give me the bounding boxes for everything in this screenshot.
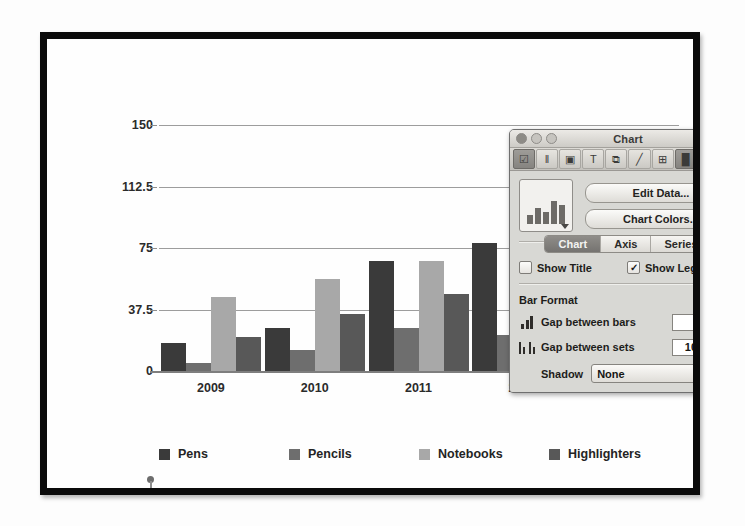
show-legend-checkbox[interactable]: ✓ Show Legend	[627, 261, 693, 274]
bar-group-2011[interactable]	[369, 39, 469, 371]
legend-swatch-icon	[419, 449, 430, 460]
bar-pencils-2009[interactable]	[186, 363, 211, 371]
shadow-value: None	[597, 368, 625, 380]
divider-2	[519, 283, 693, 285]
shapes-icon[interactable]: ⧉	[605, 149, 627, 169]
legend-label: Notebooks	[438, 447, 503, 461]
window-title: Chart	[510, 133, 693, 145]
y-axis: 037.575112.5150	[65, 39, 153, 488]
bar-pens-2010[interactable]	[265, 328, 290, 371]
chart-legend: PensPencilsNotebooksHighlighters	[159, 447, 683, 461]
edit-data-button[interactable]: Edit Data...	[585, 183, 693, 203]
legend-item-highlighters: Highlighters	[549, 447, 679, 461]
window-titlebar[interactable]: Chart	[510, 130, 693, 148]
chevron-down-icon[interactable]	[561, 224, 569, 229]
x-axis-label-2011: 2011	[405, 381, 432, 395]
bar-pencils-2010[interactable]	[290, 350, 315, 371]
y-tick	[150, 310, 157, 311]
legend-swatch-icon	[549, 449, 560, 460]
show-legend-label: Show Legend	[645, 262, 693, 274]
bar-thumb-5	[559, 205, 565, 224]
text-icon[interactable]: T	[582, 149, 604, 169]
gap-between-bars-row: Gap between bars 0% ▴▾	[519, 313, 693, 331]
legend-swatch-icon	[159, 449, 170, 460]
bar-highlighters-2009[interactable]	[236, 337, 261, 371]
document-icon[interactable]: ☑	[513, 149, 535, 169]
shadow-dropdown[interactable]: None ▴▾	[591, 364, 693, 383]
bar-highlighters-2011[interactable]	[444, 294, 469, 371]
bar-pens-2009[interactable]	[161, 343, 186, 371]
legend-label: Pens	[178, 447, 208, 461]
pencil-icon[interactable]: ╱	[628, 149, 650, 169]
pin-stem	[150, 481, 152, 488]
shadow-row: Shadow None ▴▾	[519, 364, 693, 383]
image-icon[interactable]: ▣	[559, 149, 581, 169]
bar-group-2010[interactable]	[265, 39, 365, 371]
bar-pens-2012[interactable]	[472, 243, 497, 371]
checkbox-icon-legend[interactable]: ✓	[627, 261, 640, 274]
inspector-tabs[interactable]: ChartAxisSeries	[544, 235, 693, 253]
legend-swatch-icon	[289, 449, 300, 460]
inspector-body: Edit Data... Chart Colors... ChartAxisSe…	[510, 171, 693, 392]
bar-thumb-1	[527, 215, 533, 224]
bar-pencils-2011[interactable]	[394, 328, 419, 371]
tabs-container: ChartAxisSeries	[519, 235, 693, 253]
legend-item-pencils: Pencils	[289, 447, 419, 461]
chart-type-row: Edit Data... Chart Colors...	[519, 179, 693, 232]
inspector-buttons: Edit Data... Chart Colors...	[585, 183, 693, 229]
bar-format-heading: Bar Format	[519, 294, 693, 306]
table-icon[interactable]: ⊞	[652, 149, 674, 169]
pin-marker	[146, 476, 155, 488]
bar-highlighters-2010[interactable]	[340, 314, 365, 371]
legend-label: Highlighters	[568, 447, 641, 461]
tab-series[interactable]: Series	[651, 236, 693, 252]
y-axis-label: 112.5	[122, 180, 153, 194]
legend-label: Pencils	[308, 447, 352, 461]
show-title-label: Show Title	[537, 262, 592, 274]
tab-axis[interactable]: Axis	[601, 236, 651, 252]
bar-notebooks-2010[interactable]	[315, 279, 340, 371]
frame-inner: 037.575112.5150 20092010201120122013 Pen…	[47, 39, 693, 488]
checkbox-icon-title[interactable]	[519, 261, 532, 274]
legend-item-pens: Pens	[159, 447, 289, 461]
bar-thumb-4	[551, 201, 557, 224]
checkbox-row: Show Title ✓ Show Legend	[519, 261, 693, 274]
y-tick	[150, 187, 157, 188]
chart-colors-button[interactable]: Chart Colors...	[585, 209, 693, 229]
bar-gap-icon	[519, 315, 535, 329]
gap-between-sets-input[interactable]: 100%	[672, 339, 693, 356]
chart-type-picker[interactable]	[519, 179, 573, 232]
gap-between-bars-label: Gap between bars	[541, 316, 666, 328]
bar-pens-2011[interactable]	[369, 261, 394, 371]
inspector-toolbar[interactable]: ☑‖▣T⧉╱⊞█◔◕	[510, 148, 693, 171]
y-tick	[150, 248, 157, 249]
x-axis-label-2009: 2009	[197, 381, 225, 395]
y-tick	[150, 125, 157, 126]
bar-group-2009[interactable]	[161, 39, 261, 371]
bar-thumb-2	[535, 208, 541, 224]
show-title-checkbox[interactable]: Show Title	[519, 261, 627, 274]
chart-icon[interactable]: █	[675, 149, 693, 169]
bar-notebooks-2011[interactable]	[419, 261, 444, 371]
gap-between-sets-row: Gap between sets 100% ▴▾	[519, 338, 693, 356]
screenshot-root: 037.575112.5150 20092010201120122013 Pen…	[0, 0, 745, 526]
gap-between-bars-input[interactable]: 0%	[672, 314, 693, 331]
legend-item-notebooks: Notebooks	[419, 447, 549, 461]
bar-thumb-3	[543, 212, 549, 224]
chart-inspector-window[interactable]: Chart ☑‖▣T⧉╱⊞█◔◕	[509, 129, 693, 393]
set-gap-icon	[519, 340, 535, 354]
columns-icon[interactable]: ‖	[536, 149, 558, 169]
bar-notebooks-2009[interactable]	[211, 297, 236, 371]
picture-frame: 037.575112.5150 20092010201120122013 Pen…	[40, 32, 700, 495]
tab-chart[interactable]: Chart	[545, 236, 601, 252]
x-axis-label-2010: 2010	[301, 381, 329, 395]
gap-between-sets-label: Gap between sets	[541, 341, 666, 353]
shadow-label: Shadow	[541, 368, 583, 380]
